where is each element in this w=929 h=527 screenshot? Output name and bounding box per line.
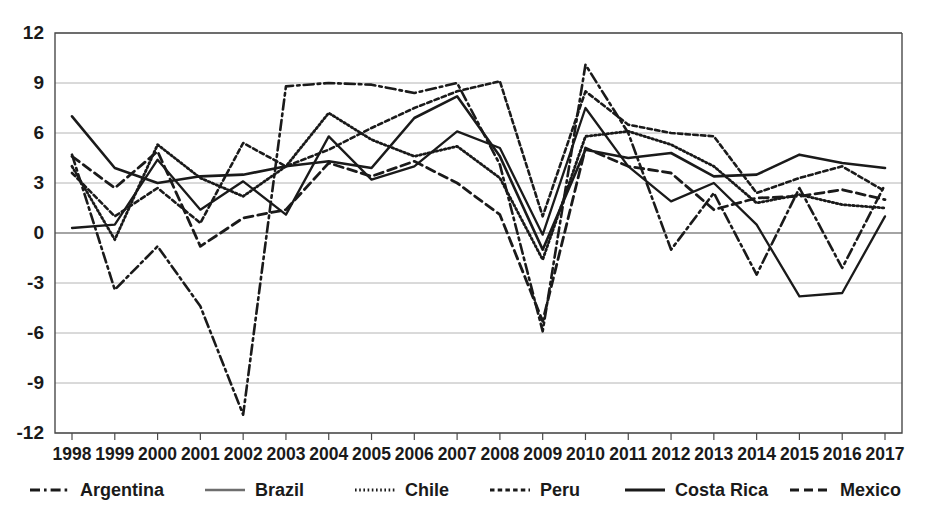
x-axis-tick-label: 2009	[523, 444, 562, 464]
x-axis-tick-label: 2017	[866, 444, 905, 464]
y-axis-tick-label: -9	[27, 372, 44, 393]
x-axis-tick-label: 1999	[95, 444, 134, 464]
y-axis-tick-label: 12	[23, 22, 44, 43]
series-line-chile	[72, 113, 885, 260]
x-axis-tick-label: 2002	[224, 444, 263, 464]
legend-label-peru[interactable]: Peru	[540, 480, 580, 500]
x-axis-tick-label: 1998	[53, 444, 92, 464]
legend-label-brazil[interactable]: Brazil	[255, 480, 304, 500]
x-axis-tick-label: 2010	[566, 444, 605, 464]
y-axis-tick-label: 6	[33, 122, 44, 143]
y-axis-tick-label: -3	[27, 272, 44, 293]
x-axis-tick-label: 2012	[652, 444, 691, 464]
series-line-argentina	[72, 65, 885, 415]
y-axis-tick-label: 0	[33, 222, 44, 243]
x-axis-tick-label: 2005	[352, 444, 391, 464]
x-axis-tick-label: 2006	[395, 444, 434, 464]
x-axis-tick-label: 2000	[138, 444, 177, 464]
x-axis-tick-label: 2016	[823, 444, 862, 464]
y-axis-tick-label: 9	[33, 72, 44, 93]
x-axis-tick-label: 2003	[266, 444, 305, 464]
x-axis-tick-label: 2007	[438, 444, 477, 464]
x-axis-tick-label: 2011	[609, 444, 647, 464]
chart-canvas: 129630-3-6-9-121998199920002001200220032…	[0, 0, 929, 527]
x-axis-tick-label: 2008	[480, 444, 519, 464]
x-axis-tick-label: 2013	[694, 444, 733, 464]
x-axis-tick-label: 2001	[181, 444, 220, 464]
gdp-growth-line-chart: 129630-3-6-9-121998199920002001200220032…	[0, 0, 929, 527]
legend-label-argentina[interactable]: Argentina	[80, 480, 165, 500]
y-axis-tick-label: -12	[17, 422, 44, 443]
y-axis-tick-label: -6	[27, 322, 44, 343]
legend-label-mexico[interactable]: Mexico	[840, 480, 901, 500]
legend-label-chile[interactable]: Chile	[405, 480, 449, 500]
x-axis-tick-label: 2015	[780, 444, 819, 464]
x-axis-tick-label: 2004	[309, 444, 348, 464]
x-axis-tick-label: 2014	[737, 444, 776, 464]
legend-label-costa-rica[interactable]: Costa Rica	[675, 480, 769, 500]
y-axis-tick-label: 3	[33, 172, 44, 193]
